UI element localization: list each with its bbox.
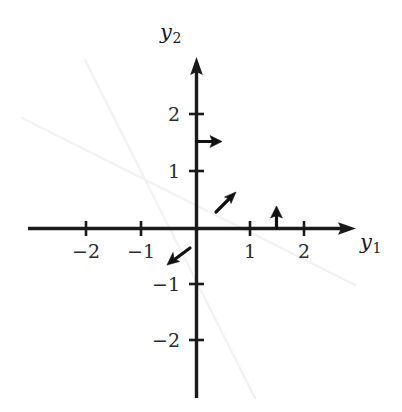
y1-axis-label-subscript: 1 <box>372 240 381 256</box>
x-tick-label-neg2: −2 <box>72 242 100 261</box>
y2-axis-label: y2 <box>160 22 181 45</box>
y2-axis-label-base: y <box>160 20 172 44</box>
phase-plane-plot <box>0 0 402 412</box>
x-tick-label-pos1: 1 <box>244 242 256 261</box>
y-tick-label-neg2: −2 <box>140 331 180 350</box>
y-tick-label-pos1: 1 <box>150 162 180 181</box>
arrow-on-positive-y1-axis <box>271 206 283 228</box>
arrow-on-positive-y2-axis <box>197 136 222 148</box>
axes-group <box>28 57 356 398</box>
x-tick-label-pos2: 2 <box>298 242 310 261</box>
x-tick-label-neg1: −1 <box>127 242 155 261</box>
y1-axis-label-base: y <box>360 230 372 254</box>
y1-axis-label: y1 <box>360 232 381 255</box>
phase-plane-figure: y2 y1 −2 −1 1 2 2 1 −1 −2 <box>0 0 402 412</box>
y-tick-label-pos2: 2 <box>150 105 180 124</box>
y2-axis-label-subscript: 2 <box>172 30 181 46</box>
arrow-first-quadrant-diagonal <box>216 192 236 212</box>
y-tick-label-neg1: −1 <box>140 275 180 294</box>
